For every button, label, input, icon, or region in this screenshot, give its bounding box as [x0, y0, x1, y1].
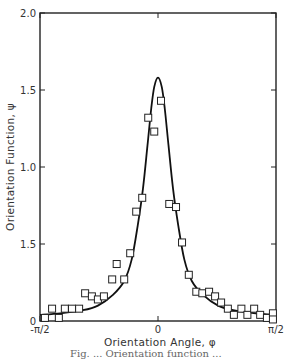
data-points	[41, 97, 276, 323]
square-marker	[133, 208, 140, 215]
square-marker	[145, 114, 152, 121]
square-marker	[61, 305, 68, 312]
x-axis-title: Orientation Angle, φ	[104, 336, 216, 348]
square-marker	[218, 299, 225, 306]
square-marker	[121, 276, 128, 283]
square-marker	[49, 305, 56, 312]
y-tick-label: 2.0	[20, 8, 36, 19]
square-marker	[100, 293, 107, 300]
x-tick-label: 0	[155, 324, 161, 335]
plot-frame	[40, 13, 276, 321]
square-marker	[151, 128, 158, 135]
y-tick-label: 1.0	[20, 162, 36, 173]
square-marker	[158, 97, 165, 104]
square-marker	[199, 290, 206, 297]
square-marker	[109, 276, 116, 283]
y-tick-label: 1.5	[20, 85, 36, 96]
square-marker	[76, 305, 83, 312]
x-axis-ticks: -π/20π/2	[30, 13, 284, 335]
square-marker	[68, 305, 75, 312]
x-tick-label: -π/2	[30, 324, 49, 335]
square-marker	[173, 204, 180, 211]
square-marker	[41, 314, 48, 321]
square-marker	[82, 290, 89, 297]
square-marker	[55, 314, 62, 321]
square-marker	[257, 311, 264, 318]
square-marker	[127, 250, 134, 257]
square-marker	[113, 261, 120, 268]
y-axis-title: Orientation Function, ψ	[4, 103, 16, 231]
square-marker	[230, 311, 237, 318]
orientation-chart: 01.51.01.52.0 -π/20π/2 Orientation Funct…	[0, 0, 290, 359]
theoretical-curve	[40, 78, 276, 315]
y-axis-ticks: 01.51.01.52.0	[20, 8, 276, 327]
figure-caption: Fig. ... Orientation function ...	[0, 348, 290, 359]
y-tick-label: 1.5	[20, 239, 36, 250]
x-tick-label: π/2	[268, 324, 284, 335]
square-marker	[185, 271, 192, 278]
square-marker	[244, 311, 251, 318]
square-marker	[139, 194, 146, 201]
square-marker	[269, 316, 276, 323]
square-marker	[166, 200, 173, 207]
square-marker	[179, 239, 186, 246]
